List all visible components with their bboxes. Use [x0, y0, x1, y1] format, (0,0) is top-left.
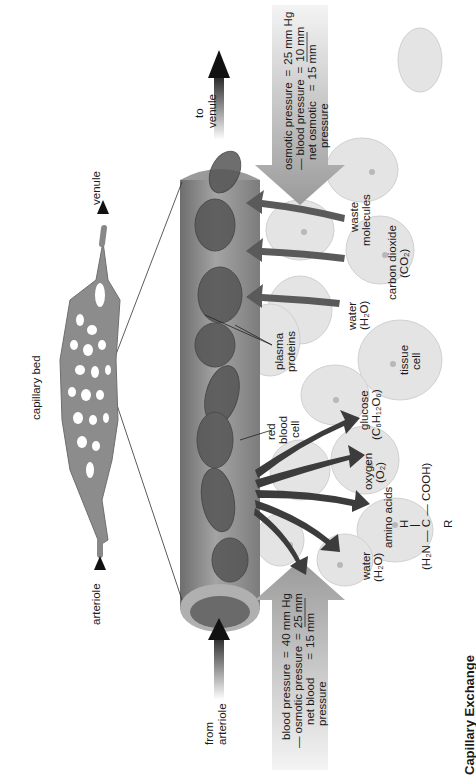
svg-text:(C₆H₁₂O₆): (C₆H₁₂O₆): [370, 389, 382, 440]
svg-text:red: red: [265, 423, 277, 440]
from-arteriole-label-1: from: [203, 722, 215, 745]
svg-text:(H₂N — C — COOH): (H₂N — C — COOH): [420, 463, 432, 570]
svg-text:R: R: [442, 520, 454, 528]
water-in-label: water (H₂O): [346, 300, 370, 331]
svg-text:carbon dioxide: carbon dioxide: [386, 225, 398, 300]
arterial-row-1: blood pressure=40 mm Hg: [280, 593, 292, 740]
svg-text:amino acids: amino acids: [382, 486, 394, 548]
capillary-bed-diagram: [60, 228, 120, 555]
svg-text:oxygen: oxygen: [362, 453, 374, 490]
figure-title: Capillary Exchange: [462, 655, 476, 775]
svg-text:tissue: tissue: [398, 345, 410, 375]
plasma-proteins-label: plasma proteins: [273, 331, 297, 372]
svg-text:|: |: [408, 524, 420, 527]
svg-text:(H₂O): (H₂O): [372, 552, 384, 582]
from-arteriole-label-2: arteriole: [216, 703, 228, 745]
water-out-label: water (H₂O): [360, 552, 384, 582]
venous-row-3: net osmotic=15 mm: [306, 44, 318, 160]
arterial-row-4: pressure: [316, 681, 328, 726]
venule-label: venule: [90, 171, 102, 205]
arterial-row-2: —osmotic pressure=25 mm: [292, 593, 304, 748]
svg-text:(H₂O): (H₂O): [358, 300, 370, 330]
svg-text:molecules: molecules: [360, 194, 372, 246]
venous-row-4: pressure: [318, 103, 330, 148]
svg-text:plasma: plasma: [273, 332, 285, 370]
to-venule-label-1: to: [193, 108, 205, 118]
red-blood-cell-label: red blood cell: [265, 416, 301, 444]
svg-text:cell: cell: [410, 353, 422, 370]
capillary-bed-label: capillary bed: [30, 355, 42, 420]
svg-text:glucose: glucose: [358, 390, 370, 430]
capillary-exchange-figure: capillary bed arteriole venule from arte…: [0, 0, 476, 776]
svg-text:water: water: [360, 552, 372, 581]
arteriole-label: arteriole: [90, 583, 102, 625]
svg-text:water: water: [346, 302, 358, 331]
zoom-lines: [110, 182, 182, 600]
svg-text:waste: waste: [348, 202, 360, 233]
svg-text:(O₂): (O₂): [374, 462, 386, 483]
to-venule-label-2: venule: [206, 94, 218, 128]
svg-text:(CO₂): (CO₂): [398, 248, 410, 278]
venous-row-1: osmotic pressure=25 mm Hg: [282, 12, 294, 170]
svg-text:blood: blood: [277, 416, 289, 444]
venous-row-2: —blood pressure=10 mm: [294, 27, 306, 170]
svg-text:cell: cell: [289, 421, 301, 438]
svg-text:proteins: proteins: [285, 331, 297, 372]
